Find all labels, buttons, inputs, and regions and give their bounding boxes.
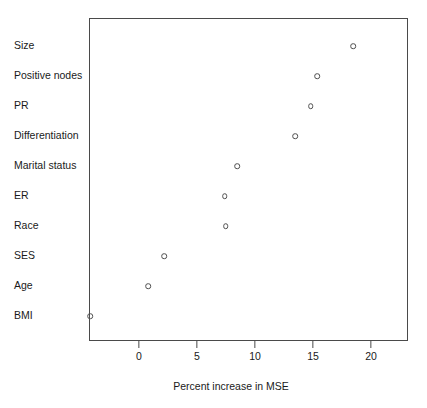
x-axis-tick: [370, 341, 371, 348]
x-axis: 05101520 Percent increase in MSE: [0, 341, 427, 408]
x-axis-tick-label: 20: [365, 351, 377, 362]
data-point: [223, 223, 229, 229]
data-point: [308, 103, 314, 109]
y-axis-label: Size: [14, 40, 34, 51]
x-axis-tick: [254, 341, 255, 348]
x-axis-tick-label: 5: [194, 351, 200, 362]
y-axis-label: Positive nodes: [14, 70, 82, 81]
data-point: [351, 43, 357, 49]
x-axis-tick-label: 15: [307, 351, 319, 362]
y-axis-label: SES: [14, 250, 35, 261]
x-axis-tick: [196, 341, 197, 348]
data-point: [145, 283, 151, 289]
y-axis-label: ER: [14, 190, 29, 201]
y-axis-label: Marital status: [14, 160, 76, 171]
x-axis-title: Percent increase in MSE: [0, 381, 427, 392]
plot-area: [89, 18, 408, 341]
y-axis-label: Differentiation: [14, 130, 79, 141]
x-axis-tick: [312, 341, 313, 348]
x-axis-title-text: Percent increase in MSE: [173, 381, 289, 392]
y-axis-label: PR: [14, 100, 29, 111]
x-axis-tick-label: 0: [136, 351, 142, 362]
data-point: [222, 193, 228, 199]
y-axis-label: Race: [14, 220, 39, 231]
data-point: [293, 133, 299, 139]
data-point: [235, 163, 241, 169]
data-point: [315, 73, 321, 79]
x-axis-tick: [138, 341, 139, 348]
data-point: [162, 253, 168, 259]
data-point: [87, 313, 93, 319]
y-axis-label: Age: [14, 280, 33, 291]
variable-importance-dotplot: SizePositive nodesPRDifferentiationMarit…: [0, 0, 427, 408]
y-axis-label: BMI: [14, 310, 33, 321]
x-axis-tick-label: 10: [249, 351, 261, 362]
